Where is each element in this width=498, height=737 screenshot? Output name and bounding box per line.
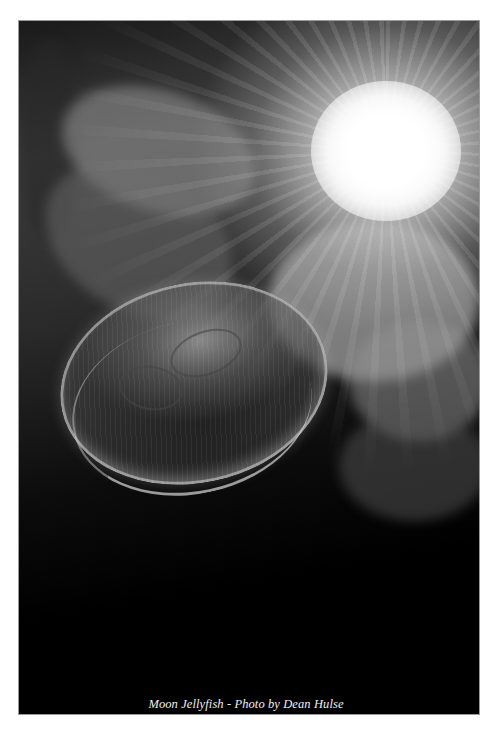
jellyfish-photo: Moon Jellyfish - Photo by Dean Hulse bbox=[18, 20, 480, 715]
sun-burst bbox=[311, 81, 461, 221]
cropped-header-text bbox=[40, 0, 150, 2]
photo-caption: Moon Jellyfish - Photo by Dean Hulse bbox=[19, 697, 479, 712]
